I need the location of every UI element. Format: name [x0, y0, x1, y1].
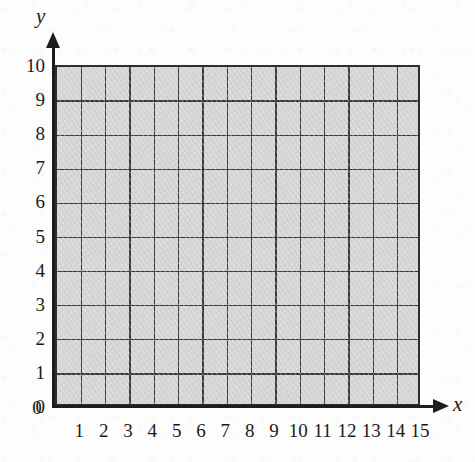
gridline-vertical [397, 67, 398, 404]
gridline-vertical [81, 67, 82, 404]
y-tick-label: 4 [36, 260, 46, 279]
figure-canvas: y x 012345678910 0123456789101112131415 [0, 0, 475, 462]
y-tick-label: 9 [36, 90, 46, 109]
x-tick-label: 13 [362, 421, 381, 440]
y-tick-label: 3 [36, 294, 46, 313]
gridline-horizontal [57, 271, 418, 272]
gridline-vertical [227, 67, 228, 404]
x-tick-label: 10 [289, 421, 308, 440]
x-tick-label: 0 [32, 398, 42, 417]
x-axis-label: x [453, 394, 462, 415]
gridline-vertical [154, 67, 155, 404]
y-tick-label: 2 [36, 328, 46, 347]
gridline-vertical [373, 67, 374, 404]
x-tick-label: 5 [172, 421, 182, 440]
gridline-vertical [129, 67, 130, 404]
x-tick-label: 1 [75, 421, 85, 440]
gridline-vertical [300, 67, 301, 404]
y-axis-label: y [36, 6, 45, 27]
gridline-horizontal [57, 100, 418, 101]
x-tick-label: 12 [338, 421, 357, 440]
grid-lines [57, 67, 418, 404]
x-tick-label: 7 [221, 421, 231, 440]
gridline-horizontal [57, 305, 418, 306]
gridline-vertical [275, 67, 276, 404]
x-tick-label: 2 [99, 421, 109, 440]
y-tick-label: 8 [36, 124, 46, 143]
gridline-vertical [105, 67, 106, 404]
gridline-horizontal [57, 373, 418, 374]
x-tick-label: 11 [314, 421, 332, 440]
gridline-horizontal [57, 135, 418, 136]
x-axis-line [55, 405, 436, 408]
x-axis-arrow-icon [433, 399, 449, 413]
gridline-vertical [251, 67, 252, 404]
x-tick-label: 8 [245, 421, 255, 440]
y-tick-label: 7 [36, 158, 46, 177]
y-axis-arrow-icon [46, 32, 60, 48]
x-tick-label: 3 [123, 421, 133, 440]
gridline-vertical [348, 67, 349, 404]
x-tick-label: 9 [269, 421, 279, 440]
y-tick-label: 5 [36, 226, 46, 245]
gridline-vertical [202, 67, 203, 404]
y-axis-line [52, 45, 55, 408]
y-tick-label: 10 [26, 56, 45, 75]
gridline-vertical [324, 67, 325, 404]
plot-fill-texture [57, 67, 418, 404]
x-tick-label: 6 [196, 421, 206, 440]
gridline-horizontal [57, 339, 418, 340]
gridline-vertical [178, 67, 179, 404]
y-tick-label: 1 [36, 362, 46, 381]
plot-area [55, 65, 420, 406]
gridline-horizontal [57, 203, 418, 204]
gridline-horizontal [57, 169, 418, 170]
x-tick-label: 14 [386, 421, 405, 440]
x-tick-label: 4 [148, 421, 158, 440]
y-tick-label: 6 [36, 192, 46, 211]
x-tick-label: 15 [411, 421, 430, 440]
gridline-horizontal [57, 237, 418, 238]
